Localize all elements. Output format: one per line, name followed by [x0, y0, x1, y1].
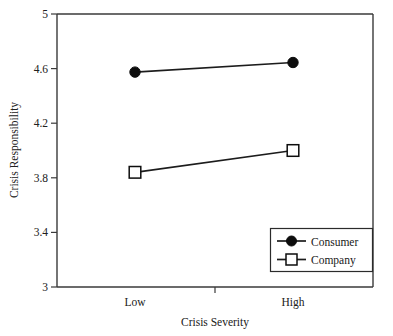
- chart-container: 3 3.4 3.8 4.2 4.6 5 Low High Crisis Seve…: [0, 0, 393, 336]
- data-point-consumer-low: [130, 67, 140, 77]
- data-point-company-low: [129, 167, 141, 179]
- y-axis-ticks: [51, 14, 57, 287]
- y-tick-label-4-2: 4.2: [34, 117, 49, 129]
- chart-legend: Consumer Company: [271, 229, 373, 272]
- series-consumer-line: [135, 63, 293, 73]
- y-tick-label-3-4: 3.4: [34, 226, 49, 238]
- x-tick-label-low: Low: [124, 296, 146, 308]
- y-tick-label-5: 5: [42, 8, 48, 20]
- interaction-plot: 3 3.4 3.8 4.2 4.6 5 Low High Crisis Seve…: [0, 0, 393, 336]
- legend-label-consumer: Consumer: [311, 236, 358, 248]
- y-tick-label-3-8: 3.8: [34, 172, 49, 184]
- legend-marker-open-square-icon: [286, 254, 297, 265]
- x-axis-title: Crisis Severity: [181, 316, 249, 329]
- legend-entry-company: Company: [277, 254, 356, 267]
- series-company: [129, 145, 299, 178]
- data-point-company-high: [287, 145, 299, 157]
- legend-label-company: Company: [311, 254, 356, 267]
- y-axis-tick-labels: 3 3.4 3.8 4.2 4.6 5: [34, 8, 49, 293]
- y-tick-label-3: 3: [42, 281, 48, 293]
- legend-entry-consumer: Consumer: [277, 236, 358, 248]
- series-company-line: [135, 151, 293, 173]
- x-tick-label-high: High: [282, 296, 305, 309]
- series-consumer: [130, 57, 298, 77]
- y-axis-title: Crisis Responsibility: [8, 102, 21, 198]
- y-tick-label-4-6: 4.6: [34, 63, 49, 75]
- data-point-consumer-high: [288, 57, 298, 67]
- legend-marker-filled-circle-icon: [287, 236, 297, 246]
